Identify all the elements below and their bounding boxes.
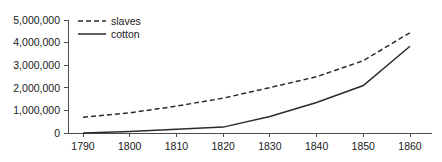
line-chart: 01,000,0002,000,0003,000,0004,000,0005,0…: [0, 0, 442, 162]
legend-label-slaves: slaves: [111, 15, 141, 27]
x-axis-tick-labels: 17901800181018201830184018501860: [71, 140, 422, 152]
y-tick-label: 2,000,000: [13, 82, 60, 94]
y-tick-label: 4,000,000: [13, 36, 60, 48]
y-tick-label: 3,000,000: [13, 59, 60, 71]
y-tick-label: 5,000,000: [13, 14, 60, 26]
y-axis-tick-marks: [64, 20, 68, 133]
x-tick-label: 1790: [71, 140, 95, 152]
x-tick-label: 1820: [211, 140, 235, 152]
series-line-slaves: [83, 33, 410, 118]
y-axis-tick-labels: 01,000,0002,000,0003,000,0004,000,0005,0…: [13, 14, 60, 139]
x-tick-label: 1860: [398, 140, 422, 152]
y-tick-label: 0: [54, 127, 60, 139]
x-tick-label: 1810: [165, 140, 189, 152]
x-tick-label: 1840: [305, 140, 329, 152]
x-axis-tick-marks: [83, 133, 410, 137]
y-tick-label: 1,000,000: [13, 104, 60, 116]
x-tick-label: 1850: [352, 140, 376, 152]
x-tick-label: 1830: [258, 140, 282, 152]
chart-legend: slavescotton: [78, 15, 141, 40]
legend-label-cotton: cotton: [111, 28, 140, 40]
series-line-cotton: [83, 46, 410, 133]
data-series-group: [83, 33, 410, 133]
chart-canvas: 01,000,0002,000,0003,000,0004,000,0005,0…: [0, 0, 442, 162]
x-tick-label: 1800: [118, 140, 142, 152]
